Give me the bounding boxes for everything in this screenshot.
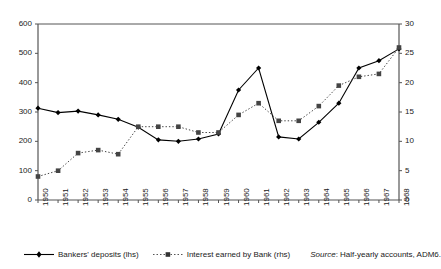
data-point-marker — [337, 83, 342, 88]
x-axis-tick-label: 1957 — [182, 188, 190, 206]
data-point-marker — [397, 45, 402, 50]
data-point-marker — [136, 124, 141, 129]
x-axis-tick-label: 1962 — [283, 188, 291, 206]
legend-entry-interest-earned: Interest earned by Bank (rhs) — [153, 250, 291, 259]
plot-frame — [38, 24, 399, 200]
data-point-marker — [36, 174, 41, 179]
data-point-marker — [196, 136, 201, 141]
legend-key-solid-line-icon — [24, 250, 54, 259]
data-point-marker — [276, 119, 281, 124]
data-point-marker — [357, 75, 362, 80]
data-point-marker — [176, 139, 181, 144]
series-layer — [35, 45, 401, 179]
data-point-marker — [56, 168, 61, 173]
right-axis-tick-label: 30 — [405, 20, 414, 28]
x-axis-tick-label: 1954 — [122, 188, 130, 206]
data-point-marker — [296, 119, 301, 124]
x-axis-tick-label: 1951 — [62, 188, 70, 206]
x-axis-tick-label: 1955 — [142, 188, 150, 206]
x-axis-tick-label: 1959 — [223, 188, 231, 206]
x-axis-tick-label: 1961 — [263, 188, 271, 206]
left-axis-tick-label: 100 — [0, 167, 32, 175]
data-point-marker — [76, 151, 81, 156]
data-point-marker — [76, 109, 81, 114]
data-point-marker — [236, 113, 241, 118]
data-point-marker — [176, 124, 181, 129]
data-point-marker — [377, 72, 382, 77]
x-axis-tick-label: 1964 — [323, 188, 331, 206]
source-note: Source: Half-yearly accounts, ADM6. — [310, 250, 441, 259]
left-axis-tick-label: 400 — [0, 79, 32, 87]
x-axis-tick-label: 1953 — [102, 188, 110, 206]
x-axis-tick-label: 1963 — [303, 188, 311, 206]
data-point-marker — [256, 101, 261, 106]
legend-label-bankers-deposits: Bankers' deposits (lhs) — [58, 250, 139, 259]
right-axis-tick-label: 15 — [405, 108, 414, 116]
x-axis-tick-label: 1966 — [363, 188, 371, 206]
x-axis-tick-label: 1968 — [403, 188, 411, 206]
left-axis-tick-label: 600 — [0, 20, 32, 28]
left-axis-tick-label: 200 — [0, 137, 32, 145]
right-axis-tick-label: 20 — [405, 79, 414, 87]
legend-entry-bankers-deposits: Bankers' deposits (lhs) — [24, 250, 139, 259]
x-axis-tick-label: 1950 — [42, 188, 50, 206]
left-axis-tick-label: 0 — [0, 196, 32, 204]
data-point-marker — [116, 117, 121, 122]
x-axis-tick-label: 1965 — [343, 188, 351, 206]
data-point-marker — [35, 106, 40, 111]
right-axis-tick-label: 25 — [405, 49, 414, 57]
source-label: Source — [310, 250, 335, 259]
data-point-marker — [356, 65, 361, 70]
source-text: : Half-yearly accounts, ADM6. — [336, 250, 441, 259]
data-point-marker — [216, 130, 221, 135]
legend-key-dotted-line-icon — [153, 250, 183, 259]
data-point-marker — [276, 134, 281, 139]
right-axis-tick-label: 10 — [405, 137, 414, 145]
legend-label-interest-earned: Interest earned by Bank (rhs) — [187, 250, 291, 259]
data-point-marker — [55, 110, 60, 115]
chart-legend: Bankers' deposits (lhs) Interest earned … — [24, 246, 434, 262]
x-axis-tick-label: 1960 — [243, 188, 251, 206]
x-axis-tick-label: 1952 — [82, 188, 90, 206]
data-point-marker — [156, 124, 161, 129]
data-point-marker — [116, 152, 121, 157]
series-line-0 — [38, 49, 399, 141]
series-line-1 — [38, 48, 399, 177]
x-axis-tick-label: 1956 — [162, 188, 170, 206]
left-axis-tick-label: 300 — [0, 108, 32, 116]
data-point-marker — [317, 104, 322, 109]
x-axis-tick-label: 1958 — [202, 188, 210, 206]
data-point-marker — [96, 112, 101, 117]
data-point-marker — [376, 58, 381, 63]
data-point-marker — [96, 148, 101, 153]
left-axis-tick-label: 500 — [0, 49, 32, 57]
data-point-marker — [196, 130, 201, 135]
x-axis-tick-label: 1967 — [383, 188, 391, 206]
right-axis-tick-label: 5 — [405, 167, 409, 175]
data-point-marker — [156, 137, 161, 142]
